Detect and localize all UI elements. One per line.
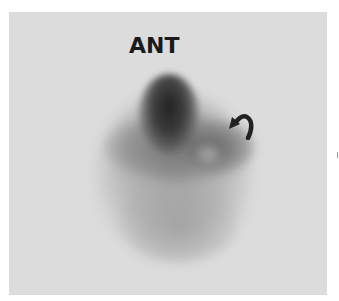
- edge-speck: [337, 152, 338, 158]
- uptake-region-lower: [119, 182, 239, 262]
- photopenic-area: [194, 142, 222, 166]
- curved-arrow-icon: [226, 112, 256, 140]
- figure-frame: ANT: [0, 0, 339, 301]
- view-label: ANT: [129, 33, 179, 58]
- uptake-region-top-intense: [139, 74, 199, 154]
